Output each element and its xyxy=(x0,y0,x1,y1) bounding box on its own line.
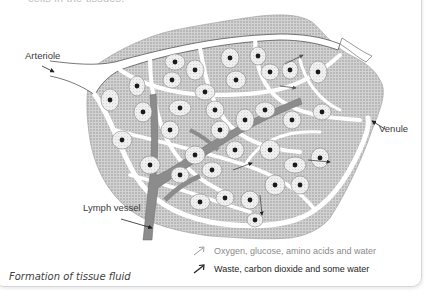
legend-item-nutrients: Oxygen, glucose, amino acids and water xyxy=(193,246,376,256)
cell-nucleus xyxy=(218,128,223,133)
cell-nucleus xyxy=(168,128,173,133)
cell-nucleus xyxy=(268,70,273,75)
cell-nucleus xyxy=(288,68,293,73)
cell-nucleus xyxy=(210,168,215,173)
venule-label: Venule xyxy=(379,123,408,134)
cell-nucleus xyxy=(178,173,183,178)
cell-nucleus xyxy=(253,218,258,223)
cell-nucleus xyxy=(316,70,321,75)
cell-nucleus xyxy=(198,200,203,205)
cell-nucleus xyxy=(248,198,253,203)
cell-nucleus xyxy=(148,163,153,168)
cell-nucleus xyxy=(290,118,295,123)
lymph-vessel-label: Lymph vessel xyxy=(83,202,141,213)
cell-nucleus xyxy=(170,78,175,83)
cell-nucleus xyxy=(203,90,208,95)
cell-nucleus xyxy=(213,108,218,113)
cell-nucleus xyxy=(193,68,198,73)
cell-nucleus xyxy=(120,138,125,143)
cell-nucleus xyxy=(293,163,298,168)
cell-nucleus xyxy=(193,153,198,158)
figure-caption: Formation of tissue fluid xyxy=(9,271,131,282)
cell-nucleus xyxy=(223,196,228,201)
cell-nucleus xyxy=(263,108,268,113)
cell-nucleus xyxy=(243,118,248,123)
legend-text-waste: Waste, carbon dioxide and some water xyxy=(214,264,369,274)
cell-nucleus xyxy=(178,106,183,111)
cell-nucleus xyxy=(108,98,113,103)
cell-nucleus xyxy=(135,84,140,89)
cell-nucleus xyxy=(256,54,261,59)
cell-nucleus xyxy=(173,60,178,65)
legend-item-waste: Waste, carbon dioxide and some water xyxy=(193,264,369,274)
cell-nucleus xyxy=(141,110,146,115)
cell-nucleus xyxy=(298,183,303,188)
cell-nucleus xyxy=(228,56,233,61)
cell-nucleus xyxy=(233,148,238,153)
dark-arrow-icon xyxy=(193,264,205,274)
arteriole-label: Arteriole xyxy=(25,50,60,61)
cell-nucleus xyxy=(273,183,278,188)
legend-text-nutrients: Oxygen, glucose, amino acids and water xyxy=(214,246,376,256)
cell-nucleus xyxy=(320,110,325,115)
light-arrow-icon xyxy=(193,246,205,256)
cell-nucleus xyxy=(318,156,323,161)
cell-nucleus xyxy=(234,78,239,83)
cell-nucleus xyxy=(268,148,273,153)
